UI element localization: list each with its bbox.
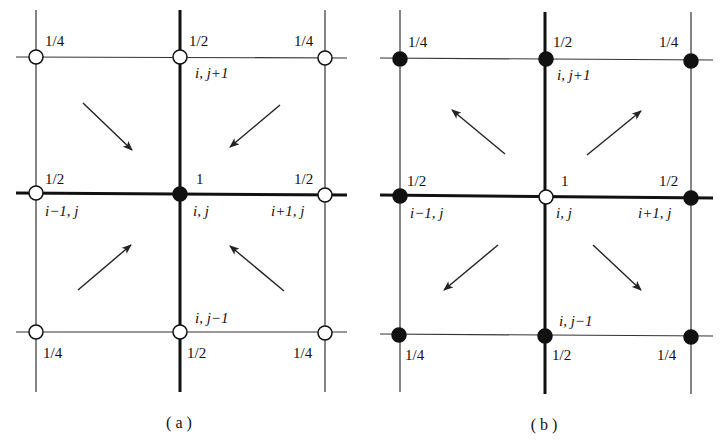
arrow-outward-icon <box>593 245 641 290</box>
weight-label: 1/2 <box>45 171 64 187</box>
hollow-node-icon <box>539 190 553 204</box>
filled-node-icon <box>684 330 698 344</box>
filled-node-icon <box>393 52 407 66</box>
filled-node-icon <box>684 54 698 68</box>
index-label: i, j <box>556 205 572 221</box>
arrow-inward-icon <box>78 245 131 290</box>
weight-label: 1 <box>561 173 569 189</box>
arrow-inward-icon <box>230 105 280 147</box>
arrow-inward-icon <box>230 246 284 291</box>
hollow-node-icon <box>173 325 187 339</box>
index-label: i, j−1 <box>559 313 592 329</box>
weight-label: 1/2 <box>553 34 572 50</box>
weight-label: 1/4 <box>293 345 313 361</box>
weight-label: 1/2 <box>189 33 208 49</box>
filled-node-icon <box>392 328 406 342</box>
filled-node-icon <box>684 191 698 205</box>
weight-label: 1/2 <box>407 173 426 189</box>
hollow-node-icon <box>318 51 332 65</box>
index-label: i, j+1 <box>557 67 590 83</box>
hollow-node-icon <box>29 186 43 200</box>
index-label: i−1, j <box>45 203 78 219</box>
index-label: i+1, j <box>271 203 304 219</box>
arrow-outward-icon <box>444 245 498 290</box>
weight-label: 1/2 <box>659 173 678 189</box>
arrow-inward-icon <box>83 103 132 150</box>
hollow-node-icon <box>173 50 187 64</box>
filled-node-icon <box>539 52 553 66</box>
arrow-outward-icon <box>452 110 505 154</box>
weight-label: 1/4 <box>657 347 677 363</box>
index-label: i, j <box>193 203 209 219</box>
weight-label: 1/4 <box>405 347 425 363</box>
stencil-diagram: 1/4 1/2 1/4 1/2 1 1/2 1/4 1/2 1/4 i, j+1… <box>0 0 720 447</box>
panel-a: 1/4 1/2 1/4 1/2 1 1/2 1/4 1/2 1/4 i, j+1… <box>16 10 347 432</box>
index-label: i+1, j <box>638 205 671 221</box>
hollow-node-icon <box>318 326 332 340</box>
weight-label: 1/4 <box>659 34 679 50</box>
index-label: i−1, j <box>410 205 443 221</box>
weight-label: 1/4 <box>294 33 314 49</box>
weight-label: 1/2 <box>187 345 206 361</box>
weight-label: 1/2 <box>552 347 571 363</box>
hollow-node-icon <box>29 50 43 64</box>
panel-b: 1/4 1/2 1/4 1/2 1 1/2 1/4 1/2 1/4 i, j+1… <box>380 10 713 434</box>
hollow-node-icon <box>29 325 43 339</box>
filled-node-icon <box>538 329 552 343</box>
weight-label: 1/4 <box>43 345 63 361</box>
index-label: i, j+1 <box>195 65 228 81</box>
weight-label: 1 <box>196 171 204 187</box>
filled-node-icon <box>173 187 187 201</box>
filled-node-icon <box>393 189 407 203</box>
hollow-node-icon <box>318 188 332 202</box>
panel-caption: ( b ) <box>531 416 558 434</box>
arrow-outward-icon <box>587 111 641 155</box>
weight-label: 1/4 <box>45 33 65 49</box>
weight-label: 1/4 <box>408 34 428 50</box>
panel-caption: ( a ) <box>166 414 192 432</box>
index-label: i, j−1 <box>195 310 228 326</box>
weight-label: 1/2 <box>294 171 313 187</box>
